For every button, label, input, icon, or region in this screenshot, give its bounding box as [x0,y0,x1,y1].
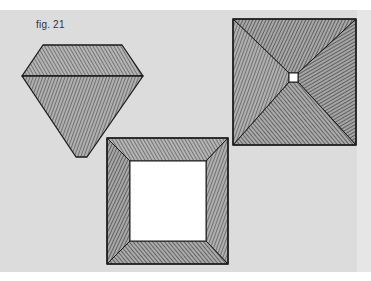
figure-drawing [0,0,371,281]
pyramid-center-square [289,73,298,82]
frame-center-white [130,161,206,241]
frame-square-shape [107,138,228,264]
frame-left-border [107,138,130,264]
gem-crown [22,45,143,76]
pyramid-square-shape [233,19,356,145]
